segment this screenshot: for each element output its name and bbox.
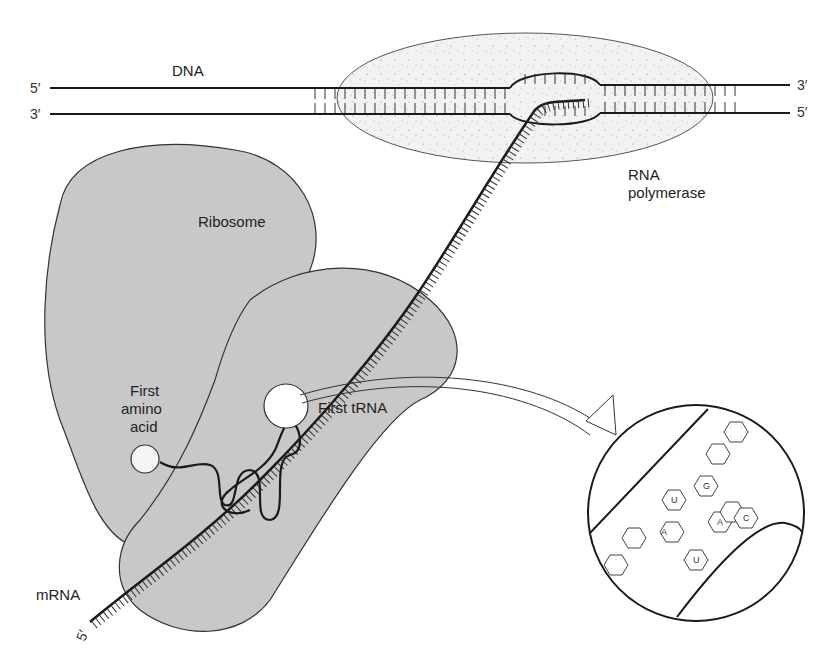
label-dna-top-right-end: 3′ <box>797 77 808 93</box>
label-dna-bottom-right-end: 5′ <box>797 104 808 120</box>
codon-anticodon-inset: A U G U A C <box>588 405 804 621</box>
label-first-amino-acid-line3: acid <box>130 418 158 435</box>
anticodon-base-c: C <box>743 513 750 523</box>
anticodon-base-a: A <box>717 517 723 527</box>
label-ribosome: Ribosome <box>198 213 266 230</box>
first-trna <box>264 384 308 428</box>
codon-base-g: G <box>703 481 710 491</box>
codon-base-u: U <box>671 495 678 505</box>
label-mrna: mRNA <box>36 586 80 603</box>
transcription-translation-diagram: A U G U A C DNA 5′ 3′ 3′ 5′ RNA polymera… <box>0 0 840 667</box>
first-amino-acid <box>131 445 159 473</box>
label-dna: DNA <box>172 62 204 79</box>
label-rna-polymerase-line1: RNA <box>628 166 660 183</box>
label-mrna-5-end: 5′ <box>73 627 92 643</box>
label-first-trna: First tRNA <box>318 399 387 416</box>
anticodon-base-u: U <box>693 555 700 565</box>
label-rna-polymerase-line2: polymerase <box>628 184 706 201</box>
codon-base-a: A <box>661 527 667 537</box>
label-first-amino-acid-line2: amino <box>121 400 162 417</box>
label-dna-bottom-left-end: 3′ <box>30 106 41 122</box>
label-dna-top-left-end: 5′ <box>30 80 41 96</box>
label-first-amino-acid-line1: First <box>130 382 160 399</box>
